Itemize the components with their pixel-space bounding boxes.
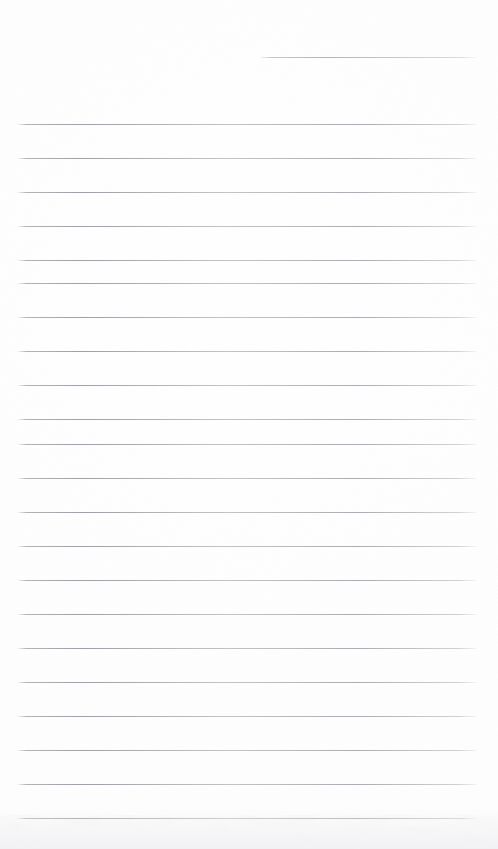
rule-line — [17, 124, 477, 125]
rule-line — [17, 192, 477, 193]
rule-line — [17, 784, 477, 785]
rule-line — [17, 158, 477, 159]
rule-line — [17, 478, 477, 479]
rule-line — [17, 419, 477, 420]
rule-line — [17, 648, 477, 649]
ruled-lines-layer — [0, 0, 498, 849]
rule-line — [17, 580, 477, 581]
partial-rule-line — [260, 57, 477, 58]
rule-line — [17, 385, 477, 386]
rule-line — [17, 260, 477, 261]
rule-line — [17, 614, 477, 615]
rule-line — [17, 512, 477, 513]
rule-line — [17, 444, 477, 445]
rule-line — [17, 682, 477, 683]
rule-line — [17, 546, 477, 547]
rule-line — [17, 226, 477, 227]
rule-line — [17, 351, 477, 352]
rule-line — [17, 818, 477, 819]
scanned-page — [0, 0, 498, 849]
rule-line — [17, 283, 477, 284]
rule-line — [17, 716, 477, 717]
rule-line — [17, 317, 477, 318]
rule-line — [17, 750, 477, 751]
